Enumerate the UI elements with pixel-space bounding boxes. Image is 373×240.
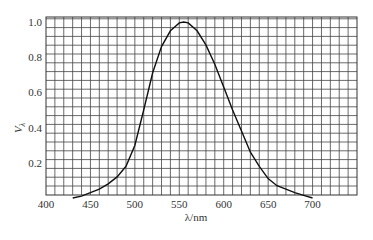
- svg-text:600: 600: [215, 198, 232, 210]
- svg-text:0.6: 0.6: [28, 86, 42, 98]
- grid: [46, 17, 357, 195]
- vlambda-curve: [73, 22, 313, 198]
- y-tick-labels: 0.20.40.60.81.0: [28, 16, 42, 169]
- svg-text:1.0: 1.0: [28, 16, 42, 28]
- luminous-efficiency-chart: 0.20.40.60.81.0 400450500550600650700 Vλ…: [0, 0, 373, 240]
- svg-text:0.2: 0.2: [28, 157, 42, 169]
- svg-text:500: 500: [127, 198, 144, 210]
- svg-text:0.4: 0.4: [28, 122, 42, 134]
- svg-text:400: 400: [38, 198, 55, 210]
- y-axis-label: Vλ: [12, 122, 27, 133]
- svg-text:700: 700: [304, 198, 321, 210]
- svg-text:550: 550: [171, 198, 188, 210]
- x-axis-label: λ/nm: [185, 211, 208, 223]
- svg-text:0.8: 0.8: [28, 51, 42, 63]
- x-tick-labels: 400450500550600650700: [38, 198, 322, 210]
- svg-text:650: 650: [260, 198, 277, 210]
- svg-text:450: 450: [82, 198, 99, 210]
